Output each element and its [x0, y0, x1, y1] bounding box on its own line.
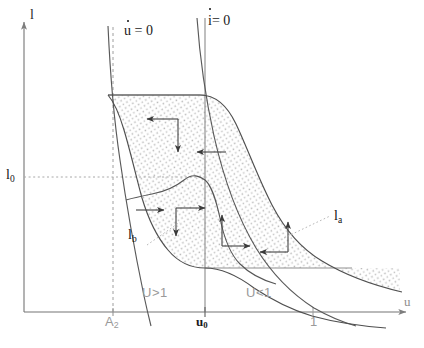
A2-base: A	[105, 314, 114, 329]
idot-rest: = 0	[212, 13, 230, 28]
nullcline-udot-label: u = 0	[124, 24, 153, 38]
x-tick-label-one: 1	[310, 315, 317, 328]
idot-glyph: i	[208, 14, 212, 28]
curve-label-l-b: lb	[128, 228, 137, 244]
nullcline-idot-label: i= 0	[208, 14, 230, 28]
phase-plane-figure: l u u = 0 i= 0 la lb U>1 U<1 A2 u0 1 l0	[0, 0, 424, 348]
idot-base: i	[208, 13, 212, 28]
u0-sub: 0	[203, 320, 207, 330]
curve-label-l-a: la	[334, 209, 342, 225]
y-tick-label-l0: l0	[6, 168, 15, 184]
phase-plane-svg	[0, 0, 424, 348]
A2-sub: 2	[114, 320, 119, 330]
udot-glyph: u	[124, 24, 131, 38]
x-tick-label-A2: A2	[105, 315, 119, 330]
l-b-sub: b	[132, 234, 137, 244]
l0-sub: 0	[10, 174, 15, 184]
udot-base: u	[124, 23, 131, 38]
l-a-sub: a	[338, 215, 342, 225]
x-axis-label: u	[404, 295, 411, 308]
x-tick-label-u0: u0	[196, 315, 208, 330]
region-label-u-less: U<1	[246, 286, 272, 299]
y-axis-label: l	[30, 8, 34, 22]
udot-rest: = 0	[131, 23, 153, 38]
region-label-u-greater: U>1	[142, 286, 168, 299]
